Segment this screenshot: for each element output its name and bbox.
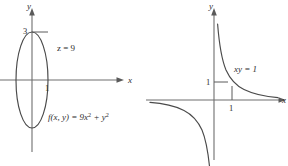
- right-level-annotation: xy = 1: [233, 64, 257, 74]
- hyperbola-branch-third-quadrant: [150, 102, 210, 166]
- right-x-axis: [146, 97, 286, 103]
- right-x-axis-label: x: [281, 95, 286, 105]
- right-tick-label-y-1: 1: [206, 77, 210, 87]
- left-chart-panel: y x 3 1 z = 9 f(x, y) = 9x2 + y2: [0, 0, 144, 166]
- left-level-annotation: z = 9: [57, 43, 76, 53]
- left-function-middle: + y: [91, 112, 106, 122]
- left-function-prefix: f(x, y) = 9x: [48, 112, 88, 122]
- left-function-exponent-2: 2: [106, 111, 109, 118]
- right-y-axis-label: y: [208, 1, 213, 11]
- hyperbola-branch-first-quadrant: [218, 24, 278, 98]
- left-tick-label-y-3: 3: [23, 26, 27, 36]
- left-y-axis-label: y: [26, 1, 31, 11]
- right-chart-panel: y x 1 1 xy = 1: [144, 0, 288, 166]
- right-tick-label-x-1: 1: [229, 103, 233, 113]
- left-x-axis: [0, 77, 124, 83]
- left-tick-label-x-1: 1: [45, 83, 49, 93]
- right-level-annotation-text: xy = 1: [233, 64, 257, 74]
- figure-container: y x 3 1 z = 9 f(x, y) = 9x2 + y2: [0, 0, 288, 166]
- right-y-axis: [211, 8, 217, 160]
- left-x-axis-label: x: [127, 75, 132, 85]
- left-function-annotation: f(x, y) = 9x2 + y2: [48, 111, 109, 122]
